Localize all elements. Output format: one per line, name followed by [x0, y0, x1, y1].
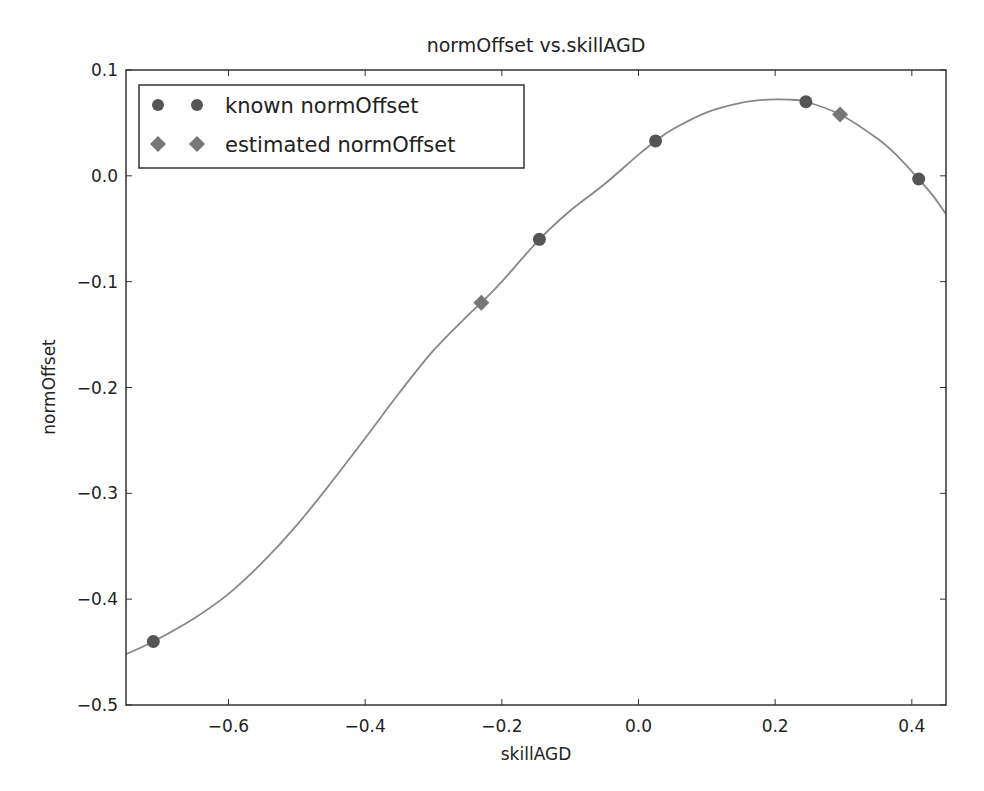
chart-title: normOffset vs.skillAGD — [427, 34, 646, 56]
legend-known-circle-icon — [152, 99, 164, 111]
x-tick-label: 0.2 — [762, 716, 789, 736]
y-tick-label: −0.4 — [77, 589, 118, 609]
legend-label-estimated: estimated normOffset — [225, 133, 455, 157]
y-tick-label: −0.1 — [77, 272, 118, 292]
fitted-curve — [126, 99, 946, 654]
x-tick-label: −0.6 — [208, 716, 249, 736]
x-axis-ticks: −0.6−0.4−0.20.00.20.4 — [208, 70, 925, 736]
y-tick-label: −0.2 — [77, 378, 118, 398]
legend: known normOffset estimated normOffset — [139, 85, 524, 168]
y-tick-label: −0.5 — [77, 695, 118, 715]
y-tick-label: 0.1 — [91, 60, 118, 80]
y-tick-label: 0.0 — [91, 166, 118, 186]
known-point-marker — [799, 95, 812, 108]
x-axis-title: skillAGD — [501, 744, 571, 764]
x-tick-label: 0.0 — [625, 716, 652, 736]
chart: normOffset vs.skillAGD −0.6−0.4−0.20.00.… — [0, 0, 984, 791]
y-axis-title: normOffset — [39, 339, 59, 435]
legend-known-circle-icon — [191, 99, 203, 111]
known-point-marker — [533, 233, 546, 246]
x-tick-label: −0.2 — [481, 716, 522, 736]
estimated-point-marker — [832, 106, 848, 122]
x-tick-label: 0.4 — [898, 716, 925, 736]
known-point-marker — [649, 134, 662, 147]
legend-label-known: known normOffset — [225, 94, 418, 118]
plot-area — [126, 95, 946, 654]
known-point-marker — [147, 635, 160, 648]
data-markers — [147, 95, 925, 648]
known-point-marker — [912, 173, 925, 186]
y-tick-label: −0.3 — [77, 483, 118, 503]
x-tick-label: −0.4 — [345, 716, 386, 736]
